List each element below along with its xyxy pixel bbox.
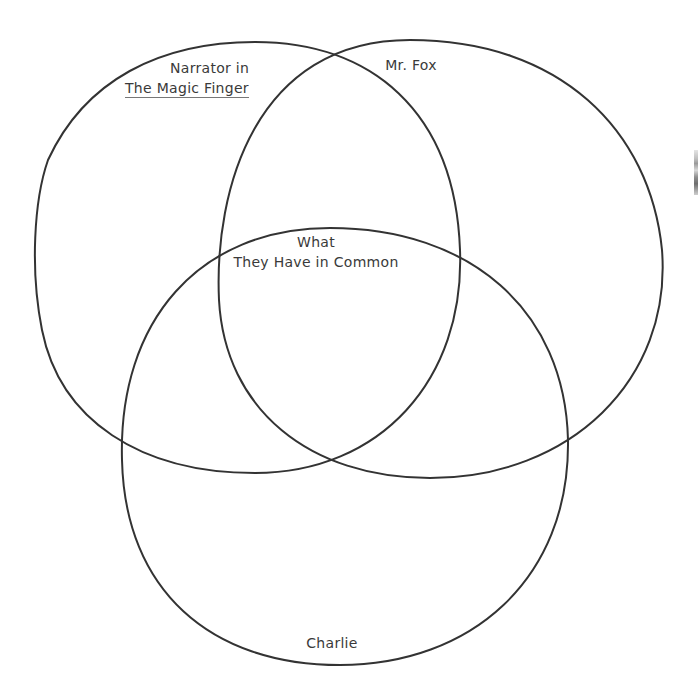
- scan-edge-mark: [694, 150, 698, 195]
- center-label-line2: They Have in Common: [216, 252, 416, 272]
- narrator-label-line1: Narrator in: [120, 58, 280, 78]
- center-label: What They Have in Common: [216, 232, 416, 272]
- center-label-line1: What: [216, 232, 416, 252]
- narrator-label-book-title: The Magic Finger: [125, 79, 249, 98]
- venn-diagram: Narrator in The Magic Finger Mr. Fox Wha…: [0, 0, 698, 699]
- set-outline-charlie: [122, 228, 568, 665]
- venn-shapes: [0, 0, 698, 699]
- set-label-mr-fox: Mr. Fox: [376, 55, 446, 75]
- set-label-charlie: Charlie: [290, 633, 374, 653]
- set-label-narrator: Narrator in The Magic Finger: [120, 58, 280, 98]
